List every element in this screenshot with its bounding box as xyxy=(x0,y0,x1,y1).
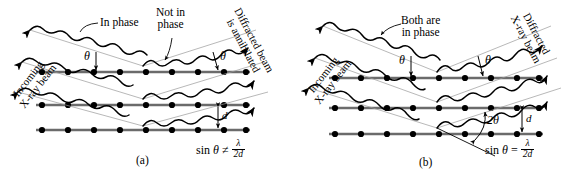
equation-b-numerator: λ xyxy=(523,139,531,149)
angle-arrow-right xyxy=(213,52,218,70)
callout-both-in-phase-line1: Both are xyxy=(401,14,440,26)
equation-a-variable: θ xyxy=(213,144,219,157)
angle-label-left-a: θ xyxy=(84,50,90,63)
callout-in-phase: In phase xyxy=(100,16,139,28)
equation-a-function: sin xyxy=(196,144,210,157)
panel-a-caption: (a) xyxy=(136,154,149,166)
d-spacing-label-b: d xyxy=(526,113,532,125)
callout-not-in-phase-line2: phase xyxy=(156,18,185,30)
equation-b-relation: = xyxy=(511,144,518,157)
equation-a-relation: ≠ xyxy=(222,144,229,157)
callout-not-in-phase: Not in phase xyxy=(156,6,185,31)
equation-a-denominator: 2d xyxy=(232,149,246,160)
equation-a-fraction: λ 2d xyxy=(232,139,246,159)
equation-a: sin θ ≠ λ 2d xyxy=(196,140,245,160)
equation-a-numerator: λ xyxy=(234,139,242,149)
scatter-angle-label-b: 2θ xyxy=(487,114,499,127)
equation-b: sin θ = λ 2d xyxy=(485,140,534,160)
angle-label-right-b: θ xyxy=(485,54,491,67)
callout-leader-not-in-phase xyxy=(165,38,172,60)
wave-ray-3 xyxy=(18,88,254,126)
equation-b-variable: θ xyxy=(502,144,508,157)
equation-b-fraction: λ 2d xyxy=(521,139,535,159)
callout-both-in-phase: Both are in phase xyxy=(401,14,440,39)
panel-b-caption: (b) xyxy=(419,156,432,168)
callout-leader-in-phase xyxy=(80,23,98,32)
callout-both-in-phase-line2: in phase xyxy=(401,26,440,38)
equation-b-denominator: 2d xyxy=(521,149,535,160)
panel-a: Incoming X-ray beam Diffracted beam is a… xyxy=(0,0,289,176)
callout-in-phase-text: In phase xyxy=(100,16,139,28)
angle-label-right-a: θ xyxy=(220,50,226,63)
d-spacing-label-a: d xyxy=(222,110,228,122)
callout-not-in-phase-line1: Not in xyxy=(156,6,185,18)
panel-b: Incoming X-ray beam Diffracted X-ray bea… xyxy=(289,0,578,176)
bragg-diffraction-figure: Incoming X-ray beam Diffracted beam is a… xyxy=(0,0,578,176)
angle-label-left-b: θ xyxy=(399,54,405,67)
callout-leader-both-in-phase xyxy=(381,24,401,35)
equation-b-function: sin xyxy=(485,144,499,157)
